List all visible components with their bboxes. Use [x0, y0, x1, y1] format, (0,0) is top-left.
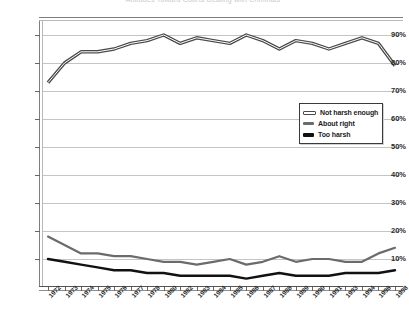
- y-tick-mark: [35, 119, 40, 120]
- series-lines: [43, 21, 400, 287]
- x-tick-mark: [98, 287, 99, 291]
- x-tick-mark: [131, 287, 132, 291]
- series-line-not-harsh-enough: [48, 35, 395, 83]
- y-tick-label: 80%: [380, 59, 406, 67]
- y-tick-label: 60%: [380, 115, 406, 123]
- y-tick-mark: [35, 231, 40, 232]
- legend-label-too-harsh: Too harsh: [318, 131, 350, 138]
- y-tick-label: 30%: [380, 199, 406, 207]
- chart-title: Attitudes Toward Courts Dealing with Cri…: [0, 0, 406, 6]
- y-tick-label: 70%: [380, 87, 406, 95]
- series-line-about-right: [48, 237, 395, 265]
- y-tick-label: 40%: [380, 171, 406, 179]
- legend-label-not-harsh-enough: Not harsh enough: [320, 109, 378, 116]
- legend-label-about-right: About right: [318, 120, 355, 127]
- y-tick-label: 20%: [380, 227, 406, 235]
- y-tick-mark: [35, 175, 40, 176]
- y-tick-label: 10%: [380, 255, 406, 263]
- legend-item-too-harsh: Too harsh: [303, 129, 378, 140]
- x-tick-mark: [230, 287, 231, 291]
- chart-legend: Not harsh enough About right Too harsh: [299, 103, 383, 144]
- y-tick-mark: [35, 63, 40, 64]
- legend-swatch-about-right: [303, 122, 314, 125]
- x-tick-mark: [197, 287, 198, 291]
- x-tick-mark: [65, 287, 66, 291]
- y-tick-mark: [35, 259, 40, 260]
- legend-item-not-harsh-enough: Not harsh enough: [303, 107, 378, 118]
- y-tick-mark: [35, 91, 40, 92]
- legend-swatch-too-harsh: [303, 133, 314, 137]
- y-tick-mark: [35, 203, 40, 204]
- y-tick-label: 90%: [380, 31, 406, 39]
- legend-item-about-right: About right: [303, 118, 378, 129]
- plot-area: [43, 21, 400, 287]
- y-tick-mark: [35, 35, 40, 36]
- y-tick-mark: [35, 147, 40, 148]
- legend-swatch-not-harsh-enough: [303, 111, 316, 115]
- y-tick-label: 50%: [380, 143, 406, 151]
- x-tick-mark: [164, 287, 165, 291]
